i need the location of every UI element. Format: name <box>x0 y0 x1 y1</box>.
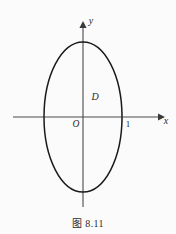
region-label-d: D <box>90 91 99 102</box>
x-tick-label-1: 1 <box>126 119 131 129</box>
figure-container: x y O 1 D 图 8.11 <box>0 0 176 234</box>
y-axis-label: y <box>88 15 94 26</box>
coordinate-plot: x y O 1 D <box>0 0 176 234</box>
y-axis-arrow-icon <box>79 21 86 28</box>
origin-label: O <box>73 119 80 129</box>
figure-caption: 图 8.11 <box>0 215 176 230</box>
x-axis-label: x <box>163 115 169 126</box>
